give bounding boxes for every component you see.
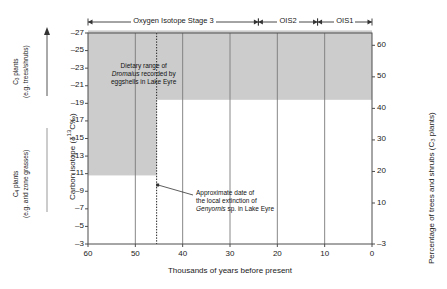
ytick-label-right-30: 30 xyxy=(377,134,399,143)
ytick-label-left--5: –5 xyxy=(58,221,84,230)
dromaius-dietary-range-annotation: Dietary range ofDromaius recorded byeggs… xyxy=(111,62,176,87)
ytick-label-left--15: –15 xyxy=(58,133,84,142)
xtick-label-40: 40 xyxy=(171,249,195,258)
ytick-label-right-50: 50 xyxy=(377,71,399,80)
ytick-label-left--19: –19 xyxy=(58,98,84,107)
ytick-label-left--17: –17 xyxy=(58,115,84,124)
c3-plants-label: C3 plants(e.g. trees/shrubs) xyxy=(12,45,29,98)
c4-plants-label: C4 plants(e.g. arid zone grasses) xyxy=(12,150,29,218)
xtick-label-60: 60 xyxy=(76,249,100,258)
ytick-label-left--9: –9 xyxy=(58,186,84,195)
band-dromaius-after xyxy=(157,30,372,99)
ytick-label-right-60: 60 xyxy=(377,40,399,49)
stage-label-1: OIS2 xyxy=(277,16,298,25)
ytick-label-left--3: –3 xyxy=(58,239,84,248)
c3-arrow-group xyxy=(44,27,50,96)
stage-arrow-0-0 xyxy=(88,19,93,24)
band-dromaius-before xyxy=(88,30,157,175)
stage-arrow-0-1 xyxy=(254,19,259,24)
ytick-label-left--27: –27 xyxy=(58,28,84,37)
xtick-label-50: 50 xyxy=(123,249,147,258)
stage-label-2: OIS1 xyxy=(334,16,355,25)
xtick-label-10: 10 xyxy=(313,249,337,258)
xtick-label-20: 20 xyxy=(265,249,289,258)
y-axis-right-title: Percentage of trees and shrubs (C3 plant… xyxy=(428,112,438,264)
xtick-label-0: 0 xyxy=(360,249,384,258)
ytick-label-left--13: –13 xyxy=(58,151,84,160)
stage-arrow-1-0 xyxy=(258,19,263,24)
genyornis-leader-line xyxy=(158,185,193,195)
stage-arrow-1-1 xyxy=(313,19,318,24)
ytick-label-left--11: –11 xyxy=(58,168,84,177)
ytick-label-left--21: –21 xyxy=(58,80,84,89)
genyornis-leader-dot xyxy=(156,184,159,187)
ytick-label-left--23: –23 xyxy=(58,63,84,72)
stage-arrow-2-1 xyxy=(368,19,373,24)
ytick-label-right-20: 20 xyxy=(377,166,399,175)
ytick-label-right-10: 10 xyxy=(377,198,399,207)
genyornis-extinction-annotation: Approximate date ofthe local extinction … xyxy=(196,189,274,214)
x-axis-title: Thousands of years before present xyxy=(88,266,372,275)
ytick-label-right-40: 40 xyxy=(377,103,399,112)
ytick-label-left--25: –25 xyxy=(58,45,84,54)
ytick-label-right--3: –3 xyxy=(377,239,399,248)
ytick-label-left--7: –7 xyxy=(58,203,84,212)
stage-arrow-2-0 xyxy=(318,19,323,24)
xtick-label-30: 30 xyxy=(218,249,242,258)
stage-label-0: Oxygen Isotope Stage 3 xyxy=(131,16,215,25)
